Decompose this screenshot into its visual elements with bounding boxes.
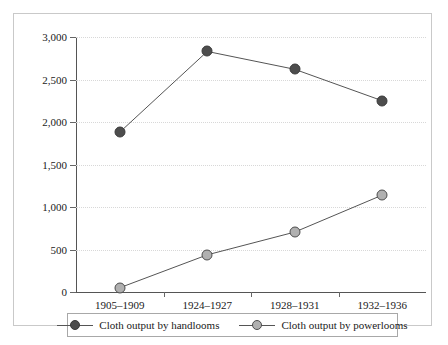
- y-axis-label: 1,500: [42, 159, 67, 171]
- data-point: [377, 190, 388, 201]
- data-point: [114, 127, 125, 138]
- chart-legend: Cloth output by handlooms Cloth output b…: [67, 313, 398, 337]
- y-axis-tick: [70, 292, 76, 293]
- x-axis-tick: [339, 292, 340, 297]
- y-axis-label: 3,000: [42, 31, 67, 43]
- y-axis-label: 500: [51, 244, 68, 256]
- data-point: [114, 282, 125, 293]
- data-point: [377, 95, 388, 106]
- y-axis-label: 1,000: [42, 201, 67, 213]
- data-point: [202, 249, 213, 260]
- y-axis-label: 2,500: [42, 74, 67, 86]
- x-axis-label: 1932–1936: [358, 299, 408, 311]
- x-axis-label: 1928–1931: [270, 299, 320, 311]
- x-axis-tick: [251, 292, 252, 297]
- chart-frame: 05001,0001,5002,0002,5003,000 1905–19091…: [13, 13, 432, 326]
- legend-marker-powerlooms-icon: [239, 320, 275, 331]
- data-point: [289, 227, 300, 238]
- plot-area: 05001,0001,5002,0002,5003,000 1905–19091…: [76, 37, 426, 292]
- legend-item-powerlooms[interactable]: Cloth output by powerlooms: [239, 319, 407, 331]
- legend-item-handlooms[interactable]: Cloth output by handlooms: [57, 319, 219, 331]
- legend-label-powerlooms: Cloth output by powerlooms: [281, 319, 407, 331]
- legend-label-handlooms: Cloth output by handlooms: [99, 319, 219, 331]
- data-point: [289, 64, 300, 75]
- series-lines: [76, 37, 426, 292]
- x-axis-tick: [164, 292, 165, 297]
- x-axis-label: 1905–1909: [95, 299, 145, 311]
- data-point: [202, 46, 213, 57]
- y-axis-label: 0: [62, 286, 68, 298]
- x-axis-label: 1924–1927: [183, 299, 233, 311]
- legend-marker-handlooms-icon: [57, 320, 93, 331]
- y-axis-label: 2,000: [42, 116, 67, 128]
